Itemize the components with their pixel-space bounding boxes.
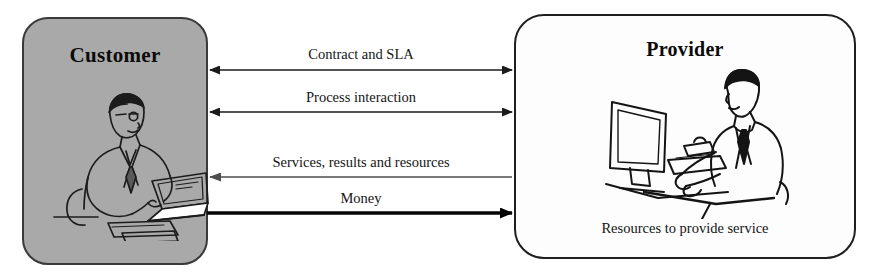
flow-label-contract-and-sla: Contract and SLA	[210, 46, 512, 63]
flow-arrow-layer	[0, 0, 873, 276]
flow-label-money: Money	[210, 190, 512, 207]
flow-label-services-results-and-resources: Services, results and resources	[210, 154, 512, 171]
service-interaction-diagram: Customer	[0, 0, 873, 276]
flow-label-process-interaction: Process interaction	[210, 89, 512, 106]
